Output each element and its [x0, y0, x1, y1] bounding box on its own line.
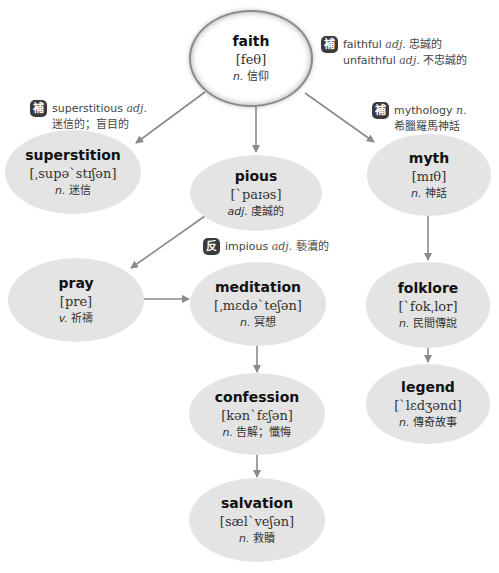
meaning-superstition: 迷信: [69, 184, 91, 197]
note-faith-word1: faithful: [343, 38, 382, 51]
supplement-badge-icon: 補: [372, 102, 389, 119]
note-superstition-meaning: 迷信的；盲目的: [30, 117, 147, 132]
pos-superstition: n.: [55, 184, 65, 197]
node-confession: confession [kənˋfɛʃən] n. 告解；懺悔: [189, 373, 325, 455]
meaning-pray: 祈禱: [71, 312, 93, 325]
node-legend: legend [ˋlɛdʒənd] n. 傳奇故事: [366, 364, 490, 444]
pos-faith: n.: [233, 70, 243, 83]
note-myth: 補mythology n. 希臘羅馬神話: [372, 102, 467, 134]
node-folklore: folklore [ˋfokˌlor] n. 民間傳說: [366, 262, 490, 348]
supplement-badge-icon: 補: [30, 100, 47, 117]
meaning-pious: 虔誠的: [251, 205, 284, 218]
note-faith-pos2: adj.: [399, 54, 420, 67]
ipa-meditation: [ˌmɛdəˋteʃən]: [214, 296, 302, 315]
note-faith-pos1: adj.: [385, 38, 406, 51]
pos-confession: n.: [223, 426, 233, 439]
ipa-salvation: [sælˋveʃən]: [220, 512, 294, 531]
word-pray: pray: [58, 274, 93, 292]
pos-meditation: n.: [240, 316, 250, 329]
note-pious-word: impious: [225, 240, 268, 253]
ipa-legend: [ˋlɛdʒənd]: [394, 396, 462, 415]
meaning-folklore: 民間傳說: [413, 317, 457, 330]
note-pious-pos: adj.: [272, 240, 293, 253]
word-meditation: meditation: [215, 278, 301, 296]
meaning-meditation: 冥想: [254, 316, 276, 329]
word-superstition: superstition: [25, 146, 121, 164]
note-faith-meaning2: 不忠誠的: [423, 54, 467, 67]
supplement-badge-icon: 補: [321, 36, 338, 53]
word-legend: legend: [401, 378, 455, 396]
word-confession: confession: [215, 388, 300, 406]
meaning-legend: 傳奇故事: [413, 416, 457, 429]
ipa-confession: [kənˋfɛʃən]: [221, 406, 293, 425]
pos-pious: adj.: [228, 205, 248, 218]
arrow-pious-pray: [131, 216, 205, 268]
note-pious: 反impious adj. 褻瀆的: [203, 238, 329, 255]
ipa-folklore: [ˋfokˌlor]: [399, 297, 458, 316]
node-salvation: salvation [sælˋveʃən] n. 救贖: [189, 478, 325, 562]
word-myth: myth: [409, 149, 449, 167]
ipa-faith: [feθ]: [236, 50, 266, 69]
note-faith: 補faithful adj. 忠誠的 unfaithful adj. 不忠誠的: [321, 36, 467, 68]
note-superstition-pos: adj.: [126, 102, 147, 115]
note-myth-word: mythology: [394, 104, 453, 117]
meaning-salvation: 救贖: [253, 532, 275, 545]
note-myth-meaning: 希臘羅馬神話: [372, 119, 467, 134]
note-superstition: 補superstitious adj. 迷信的；盲目的: [30, 100, 147, 132]
pos-pray: v.: [59, 312, 68, 325]
pos-salvation: n.: [239, 532, 249, 545]
note-superstition-word: superstitious: [52, 102, 123, 115]
note-faith-meaning1: 忠誠的: [409, 38, 442, 51]
ipa-pray: [pre]: [60, 292, 92, 311]
note-myth-pos: n.: [456, 104, 467, 117]
word-salvation: salvation: [221, 494, 293, 512]
meaning-confession: 告解；懺悔: [236, 426, 291, 439]
pos-folklore: n.: [399, 317, 409, 330]
word-folklore: folklore: [398, 279, 459, 297]
node-meditation: meditation [ˌmɛdəˋteʃən] n. 冥想: [190, 262, 326, 346]
ipa-myth: [mɪθ]: [412, 167, 446, 186]
pos-myth: n.: [411, 187, 421, 200]
node-faith: faith [feθ] n. 信仰: [189, 10, 313, 107]
arrow-faith-myth: [305, 93, 374, 142]
node-pray: pray [pre] v. 祈禱: [8, 258, 144, 342]
note-faith-word2: unfaithful: [343, 54, 396, 67]
node-pious: pious [ˋpaɪəs] adj. 虔誠的: [190, 155, 322, 231]
word-faith: faith: [233, 32, 270, 50]
node-myth: myth [mɪθ] n. 神話: [367, 134, 491, 216]
ipa-superstition: [ˌsupəˋstɪʃən]: [30, 164, 117, 183]
node-superstition: superstition [ˌsupəˋstɪʃən] n. 迷信: [5, 130, 141, 214]
note-pious-meaning: 褻瀆的: [296, 240, 329, 253]
meaning-myth: 神話: [425, 187, 447, 200]
antonym-badge-icon: 反: [203, 238, 220, 255]
ipa-pious: [ˋpaɪəs]: [230, 185, 281, 204]
pos-legend: n.: [399, 416, 409, 429]
word-pious: pious: [235, 167, 278, 185]
meaning-faith: 信仰: [247, 70, 269, 83]
